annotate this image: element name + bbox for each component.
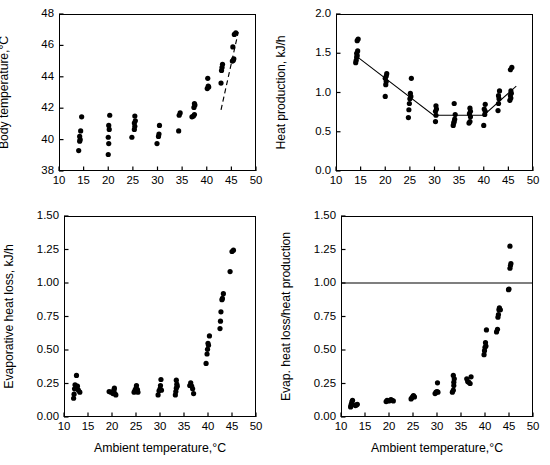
y-axis-label-evap-heat-loss-over-heat-production: Evap. heat loss/heat production <box>279 216 293 417</box>
data-point <box>507 244 512 249</box>
y-tick-label: 0.75 <box>296 310 336 322</box>
data-point <box>391 398 396 403</box>
panel-evap-heat-loss-over-heat-production: 0.000.250.500.751.001.251.50101520253035… <box>0 0 550 465</box>
data-point <box>350 398 355 403</box>
data-point <box>355 402 360 407</box>
figure-root: 384042444648101520253035404550Body tempe… <box>0 0 550 465</box>
data-point <box>508 261 513 266</box>
data-point <box>495 327 500 332</box>
data-point <box>496 312 501 317</box>
data-point <box>468 374 473 379</box>
data-point <box>483 340 488 345</box>
data-point <box>451 388 456 393</box>
data-point <box>435 390 440 395</box>
y-tick-label: 1.25 <box>296 243 336 255</box>
x-tick-label: 50 <box>518 420 548 432</box>
data-point <box>506 286 511 291</box>
y-tick-label: 1.00 <box>296 276 336 288</box>
y-tick-label: 0.50 <box>296 343 336 355</box>
data-point <box>435 380 440 385</box>
y-tick-label: 1.50 <box>296 209 336 221</box>
y-tick-label: 0.25 <box>296 377 336 389</box>
data-point <box>412 394 417 399</box>
x-axis-label-evap-heat-loss-over-heat-production: Ambient temperature,°C <box>341 441 533 455</box>
data-point <box>498 307 503 312</box>
data-point <box>451 373 456 378</box>
data-point <box>468 381 473 386</box>
data-point <box>484 327 489 332</box>
